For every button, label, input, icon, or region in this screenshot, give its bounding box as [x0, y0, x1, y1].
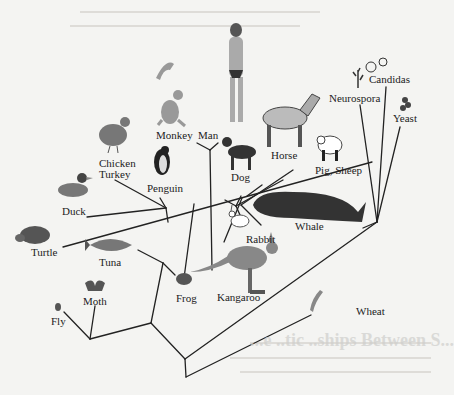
taxon-label-moth: Moth: [83, 295, 107, 307]
horse-icon: [263, 94, 320, 147]
taxon-label-candidas: Candidas: [369, 73, 410, 85]
taxon-label-man: Man: [198, 129, 218, 141]
taxon-label-penguin: Penguin: [147, 182, 183, 194]
taxon-label-neurospora: Neurospora: [329, 92, 380, 104]
candidas-icon: [366, 58, 387, 72]
taxon-label-turkey: Turkey: [99, 168, 130, 180]
taxon-label-yeast: Yeast: [393, 112, 417, 124]
taxon-label-monkey: Monkey: [156, 129, 193, 141]
frog-icon: [176, 273, 192, 285]
dog-icon: [222, 137, 256, 170]
man-icon: [229, 23, 243, 122]
taxon-label-kangaroo: Kangaroo: [217, 291, 260, 303]
taxon-label-turtle: Turtle: [31, 246, 58, 258]
wheat-icon: [310, 290, 323, 312]
bleedthrough-heading: ...e ..tic ..ships Between S...: [250, 330, 454, 351]
duck-icon: [58, 173, 93, 197]
taxon-label-frog: Frog: [176, 292, 197, 304]
taxon-label-tuna: Tuna: [99, 256, 121, 268]
bleedthrough-text: [70, 12, 431, 372]
chicken-icon: [99, 117, 130, 153]
tuna-icon: [85, 239, 132, 251]
taxon-label-pig-sheep: Pig, Sheep: [315, 164, 362, 176]
moth-icon: [85, 281, 105, 291]
taxon-label-rabbit: Rabbit: [246, 233, 275, 245]
yeast-icon: [400, 97, 411, 111]
whale-icon: [253, 192, 366, 222]
taxon-label-wheat: Wheat: [356, 305, 385, 317]
penguin-icon: [154, 146, 170, 175]
rabbit-icon: [229, 205, 249, 227]
taxon-label-horse: Horse: [271, 149, 297, 161]
taxon-label-dog: Dog: [231, 171, 250, 183]
taxon-label-duck: Duck: [62, 205, 86, 217]
taxon-label-fly: Fly: [51, 315, 66, 327]
taxon-label-whale: Whale: [295, 220, 324, 232]
fly-icon: [55, 303, 61, 311]
monkey-icon: [156, 63, 185, 126]
turtle-icon: [15, 226, 50, 244]
neurospora-icon: [353, 68, 363, 88]
sheep-icon: [317, 136, 342, 161]
